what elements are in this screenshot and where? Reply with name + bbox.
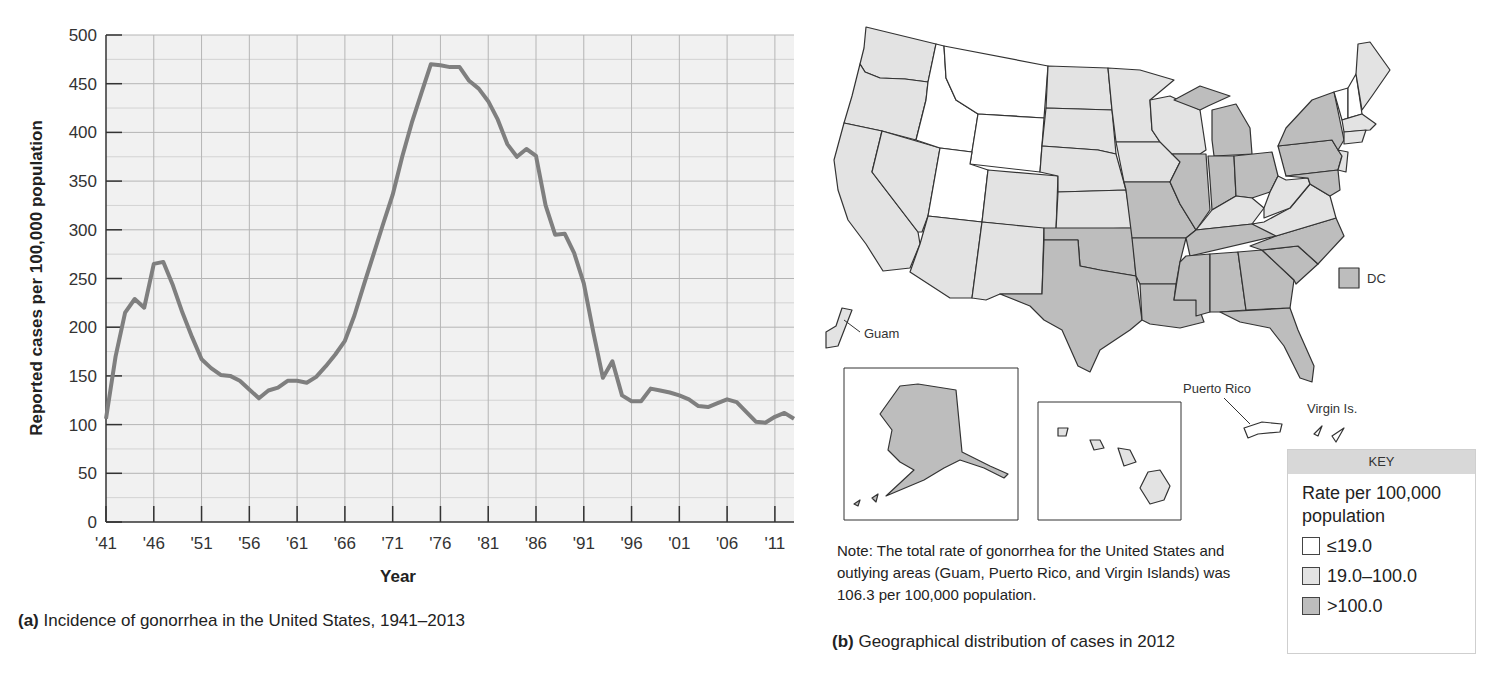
- x-tick-label: '81: [477, 534, 499, 553]
- label-dc: DC: [1367, 271, 1386, 286]
- map-note: Note: The total rate of gonorrhea for th…: [837, 540, 1257, 606]
- label-puerto-rico: Puerto Rico: [1183, 381, 1251, 396]
- state-wyoming: [970, 114, 1044, 172]
- panel-a-caption: (a) Incidence of gonorrhea in the United…: [18, 611, 465, 631]
- map-legend: KEY Rate per 100,000 population ≤19.0 19…: [1287, 449, 1476, 654]
- y-tick-label: 250: [69, 270, 97, 289]
- territory-guam: [826, 308, 852, 348]
- y-tick-label: 150: [69, 367, 97, 386]
- y-tick-label: 0: [88, 513, 97, 532]
- y-tick-label: 450: [69, 75, 97, 94]
- hawaii-inset-frame: [1038, 402, 1181, 520]
- legend-swatch-mid: [1302, 567, 1320, 585]
- x-tick-label: '66: [334, 534, 356, 553]
- y-tick-label: 50: [78, 464, 97, 483]
- legend-swatch-high: [1302, 597, 1320, 615]
- y-tick-label: 300: [69, 221, 97, 240]
- x-tick-label: '56: [238, 534, 260, 553]
- x-tick-label: '51: [190, 534, 212, 553]
- x-tick-label: '06: [716, 534, 738, 553]
- state-north-dakota: [1046, 66, 1112, 110]
- territory-virgin-islands: [1314, 426, 1344, 442]
- y-axis-title: Reported cases per 100,000 population: [27, 120, 46, 436]
- panel-b-label: (b): [832, 632, 854, 651]
- figure-canvas: 050100150200250300350400450500 '41'46'51…: [0, 0, 1489, 678]
- x-tick-label: '91: [573, 534, 595, 553]
- y-tick-label: 500: [69, 26, 97, 45]
- panel-b-caption-text: Geographical distribution of cases in 20…: [854, 632, 1175, 651]
- legend-swatch-low: [1302, 537, 1320, 555]
- x-tick-label: '11: [764, 534, 785, 553]
- label-virgin-islands: Virgin Is.: [1307, 401, 1357, 416]
- state-michigan: [1212, 104, 1252, 156]
- x-tick-label: '76: [429, 534, 451, 553]
- grid-lines: [106, 35, 794, 522]
- line-chart: 050100150200250300350400450500 '41'46'51…: [27, 26, 794, 586]
- state-connecticut: [1344, 130, 1366, 144]
- puerto-rico-leader: [1224, 398, 1250, 424]
- y-tick-label: 100: [69, 416, 97, 435]
- legend-title: Rate per 100,000 population: [1288, 474, 1475, 528]
- y-tick-label: 350: [69, 172, 97, 191]
- x-tick-label: '86: [525, 534, 547, 553]
- x-tick-label: '01: [668, 534, 690, 553]
- x-tick-label: '71: [382, 534, 404, 553]
- territory-puerto-rico: [1244, 422, 1282, 438]
- state-colorado: [982, 170, 1058, 230]
- state-kansas: [1056, 190, 1132, 230]
- legend-label-high: >100.0: [1327, 596, 1383, 617]
- y-tick-label: 400: [69, 123, 97, 142]
- dc-swatch: [1339, 268, 1359, 288]
- legend-item-high: >100.0: [1302, 594, 1475, 618]
- legend-label-mid: 19.0–100.0: [1327, 566, 1417, 587]
- x-tick-label: '61: [286, 534, 308, 553]
- panel-a-label: (a): [18, 611, 39, 630]
- panel-a-caption-text: Incidence of gonorrhea in the United Sta…: [39, 611, 465, 630]
- panel-b-caption: (b) Geographical distribution of cases i…: [832, 632, 1175, 652]
- x-tick-label: '96: [620, 534, 642, 553]
- label-guam: Guam: [864, 326, 899, 341]
- us-map: [826, 27, 1390, 520]
- state-florida: [1220, 308, 1314, 382]
- state-maine: [1356, 42, 1390, 110]
- x-tick-label: '46: [143, 534, 165, 553]
- y-tick-label: 200: [69, 318, 97, 337]
- state-new-york: [1278, 92, 1344, 150]
- legend-item-low: ≤19.0: [1302, 534, 1475, 558]
- x-axis-title: Year: [380, 567, 416, 586]
- state-new-mexico: [972, 222, 1044, 300]
- x-tick-label: '41: [95, 534, 117, 553]
- legend-item-mid: 19.0–100.0: [1302, 564, 1475, 588]
- state-washington: [860, 27, 936, 82]
- legend-label-low: ≤19.0: [1327, 536, 1372, 557]
- legend-header: KEY: [1288, 450, 1475, 474]
